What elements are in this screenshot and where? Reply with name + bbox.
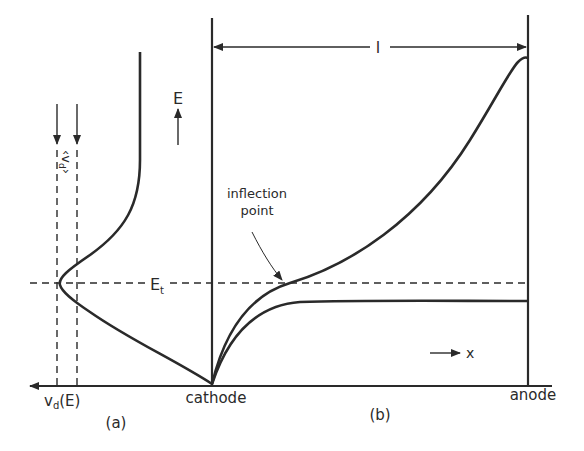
- x-direction-label: x: [466, 345, 474, 361]
- annotation-line1: inflection: [227, 186, 287, 201]
- panel-a-label: (a): [106, 414, 127, 432]
- annotation-line2: point: [240, 203, 273, 218]
- annotation-arrow: [252, 232, 282, 280]
- drift-velocity-curve: [60, 52, 212, 384]
- velocity-axis-label: vd(E): [44, 392, 80, 411]
- threshold-label: Et: [150, 275, 164, 296]
- field-label: E: [173, 89, 183, 108]
- svg-text:‹vd›: ‹vd›: [57, 150, 74, 174]
- cathode-label: cathode: [186, 389, 247, 407]
- panel-b-label: (b): [369, 406, 390, 424]
- field-profile-curve-lower: [212, 301, 528, 384]
- field-profile-curve-upper: [212, 58, 528, 384]
- anode-label: anode: [510, 386, 557, 404]
- mean-velocity-label: ‹vd›: [57, 150, 74, 174]
- figure-canvas: l Et ‹vd› E inflection point x vd(E) (a)…: [0, 0, 584, 451]
- length-label: l: [376, 38, 380, 57]
